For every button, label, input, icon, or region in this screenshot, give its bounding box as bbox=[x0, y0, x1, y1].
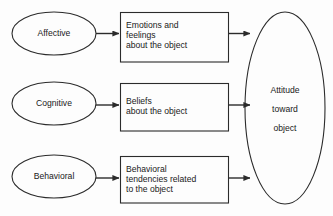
attitude-model-diagram: Affective Cognitive Behavioral Emotions … bbox=[0, 0, 333, 216]
ellipse-affective bbox=[12, 12, 96, 55]
diagram-canvas bbox=[0, 0, 333, 216]
box-cognitive-description bbox=[121, 84, 229, 132]
ellipse-attitude-outcome bbox=[245, 12, 325, 204]
box-affective-description bbox=[121, 13, 229, 63]
box-behavioral-description bbox=[121, 157, 229, 204]
ellipse-cognitive bbox=[12, 82, 96, 125]
ellipse-behavioral bbox=[12, 155, 96, 198]
